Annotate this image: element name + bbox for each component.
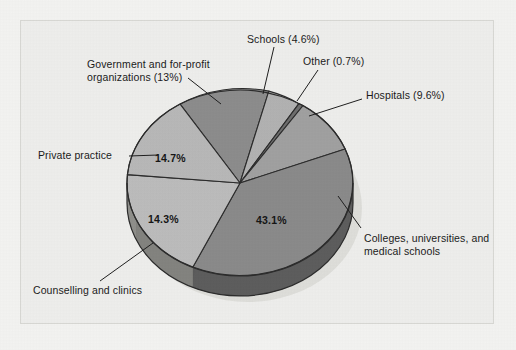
pie-chart-stage: Schools (4.6%) Other (0.7%) Government a…: [0, 0, 516, 350]
slice-label-government: Government and for-profit organizations …: [87, 58, 210, 84]
slice-label-schools: Schools (4.6%): [247, 33, 320, 46]
slice-label-counselling: Counselling and clinics: [33, 284, 142, 297]
slice-label-colleges: Colleges, universities, and medical scho…: [364, 232, 489, 258]
leader-line-hospitals: [309, 99, 362, 116]
leader-line-schools: [263, 47, 274, 94]
slice-label-other: Other (0.7%): [303, 55, 364, 68]
slice-value-private-practice: 14.7%: [155, 152, 186, 164]
slice-label-hospitals: Hospitals (9.6%): [366, 89, 445, 102]
slice-value-colleges: 43.1%: [256, 214, 287, 226]
slice-label-private-practice: Private practice: [38, 149, 112, 162]
slice-value-counselling: 14.3%: [148, 213, 179, 225]
leader-line-other: [297, 70, 318, 101]
leader-line-counselling: [100, 243, 153, 281]
pie-chart-svg: [0, 0, 516, 350]
